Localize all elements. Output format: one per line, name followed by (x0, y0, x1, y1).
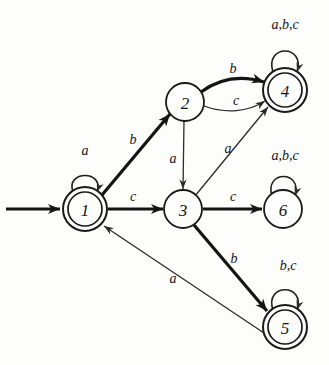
states-layer: 123456 (63, 68, 307, 349)
transition-label: c (230, 189, 237, 204)
state-node-6[interactable]: 6 (264, 190, 302, 228)
transition-label: c (130, 189, 137, 204)
transition-label: a (225, 141, 232, 156)
self-loop-label: b,c (280, 258, 298, 273)
start-arrow-layer (6, 204, 60, 214)
transition-3-to-4-a[interactable]: a (195, 105, 271, 196)
state-node-2[interactable]: 2 (166, 83, 204, 121)
start-arrow (6, 204, 60, 214)
transition-2-to-3-a[interactable]: a (170, 121, 187, 189)
transition-label: a (170, 151, 177, 166)
transition-path (195, 107, 268, 196)
transition-3-to-5-b[interactable]: b (194, 225, 271, 314)
transition-1-to-2-b[interactable]: b (102, 111, 174, 195)
self-loop-label: a,b,c (271, 148, 299, 163)
self-loops-layer: aa,b,cb,ca,b,c (72, 17, 303, 312)
transition-3-to-6-c[interactable]: c (203, 189, 262, 215)
self-loop-label: a (82, 143, 89, 158)
transition-path (194, 225, 267, 311)
transition-path (183, 121, 184, 189)
arrowhead-icon (102, 223, 114, 234)
self-loop-label: a,b,c (271, 17, 299, 32)
transition-label: b (130, 132, 137, 147)
self-loop-4-a,b,c[interactable]: a,b,c (271, 17, 303, 74)
transition-2-to-4-b[interactable]: b (201, 61, 265, 93)
state-label: 3 (178, 201, 188, 220)
state-node-3[interactable]: 3 (164, 190, 202, 228)
state-label: 2 (181, 94, 190, 113)
state-node-5[interactable]: 5 (263, 305, 307, 349)
state-label: 5 (281, 319, 290, 338)
state-node-1[interactable]: 1 (63, 187, 107, 231)
automaton-diagram: bcabcacba aa,b,cb,ca,b,c 123456 (0, 0, 329, 365)
state-node-4[interactable]: 4 (263, 68, 307, 112)
transition-label: c (233, 93, 240, 108)
transition-label: a (170, 271, 177, 286)
transition-1-to-3-c[interactable]: c (108, 189, 163, 215)
automaton-canvas: bcabcacba aa,b,cb,ca,b,c 123456 (0, 0, 329, 365)
transition-label: b (231, 251, 238, 266)
self-loop-1-a[interactable]: a (72, 143, 104, 194)
transition-path (102, 114, 170, 195)
state-label: 4 (281, 82, 290, 101)
transition-2-to-4-c[interactable]: c (204, 93, 267, 111)
state-label: 6 (279, 201, 288, 220)
self-loop-5-b,c[interactable]: b,c (272, 258, 304, 312)
state-label: 1 (81, 201, 90, 220)
transition-path (201, 78, 264, 92)
transition-label: b (230, 61, 237, 76)
